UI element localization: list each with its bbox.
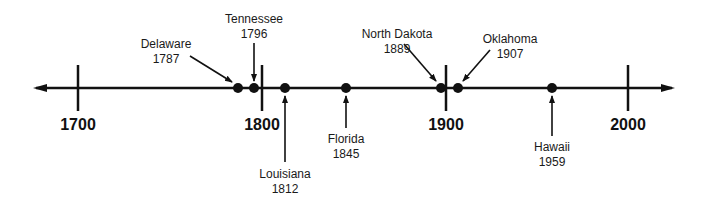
state-name: Florida bbox=[328, 132, 365, 147]
state-name: Louisiana bbox=[259, 167, 310, 182]
state-name: North Dakota bbox=[362, 27, 433, 42]
event-dot-oklahoma bbox=[453, 83, 463, 93]
event-label-louisiana: Louisiana1812 bbox=[259, 167, 310, 197]
event-label-florida: Florida1845 bbox=[328, 132, 365, 162]
state-name: Delaware bbox=[141, 37, 192, 52]
event-dot-tennessee bbox=[249, 83, 259, 93]
statehood-year: 1907 bbox=[483, 47, 538, 62]
state-name: Hawaii bbox=[534, 140, 570, 155]
event-label-hawaii: Hawaii1959 bbox=[534, 140, 570, 170]
event-label-oklahoma: Oklahoma1907 bbox=[483, 32, 538, 62]
event-dot-north-dakota bbox=[436, 83, 446, 93]
pointer-arrow-icon bbox=[190, 56, 232, 82]
event-label-north-dakota: North Dakota1889 bbox=[362, 27, 433, 57]
event-dot-louisiana bbox=[280, 83, 290, 93]
timeline-diagram bbox=[0, 0, 706, 202]
event-label-delaware: Delaware1787 bbox=[141, 37, 192, 67]
event-dot-hawaii bbox=[547, 83, 557, 93]
state-name: Oklahoma bbox=[483, 32, 538, 47]
event-dot-delaware bbox=[233, 83, 243, 93]
tick-label-2000: 2000 bbox=[610, 116, 646, 134]
state-name: Tennessee bbox=[225, 12, 283, 27]
statehood-year: 1812 bbox=[259, 182, 310, 197]
statehood-year: 1889 bbox=[362, 42, 433, 57]
left-arrowhead-icon bbox=[33, 84, 47, 92]
event-dot-florida bbox=[341, 83, 351, 93]
statehood-year: 1959 bbox=[534, 155, 570, 170]
statehood-year: 1796 bbox=[225, 27, 283, 42]
tick-label-1800: 1800 bbox=[244, 116, 280, 134]
statehood-year: 1787 bbox=[141, 52, 192, 67]
right-arrowhead-icon bbox=[661, 84, 675, 92]
statehood-year: 1845 bbox=[328, 147, 365, 162]
tick-label-1900: 1900 bbox=[428, 116, 464, 134]
tick-label-1700: 1700 bbox=[60, 116, 96, 134]
event-label-tennessee: Tennessee1796 bbox=[225, 12, 283, 42]
